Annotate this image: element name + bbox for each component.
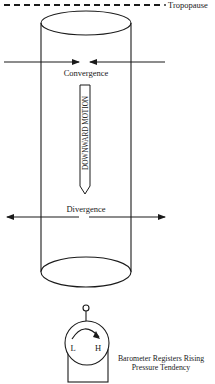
barometer-caption-line1: Barometer Registers Rising [118,354,204,363]
convergence-label: Convergence [64,68,109,78]
barometer-caption-line2: Pressure Tendency [132,363,191,372]
barometer-low-label: L [70,343,75,353]
barometer-knob [83,305,89,311]
barometer-high-label: H [95,343,101,353]
sinking-air-column-diagram: Tropopause Convergence DOWNWARD MOTION D… [0,0,215,384]
downward-motion-label: DOWNWARD MOTION [82,95,90,170]
tropopause-label: Tropopause [168,0,208,10]
divergence-label: Divergence [66,204,105,214]
